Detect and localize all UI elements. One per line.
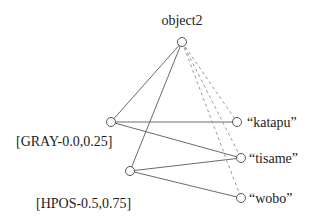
edge-hpos-tisame (130, 158, 241, 171)
node-tisame[interactable] (237, 154, 246, 163)
label-katapu: “katapu” (247, 115, 297, 130)
edge-object2-katapu (182, 42, 237, 122)
edge-hpos-wobo (130, 171, 241, 198)
label-hpos: [HPOS-0.5,0.75] (36, 196, 131, 211)
label-object2: object2 (161, 13, 202, 28)
node-gray[interactable] (107, 118, 116, 127)
node-object2[interactable] (178, 38, 187, 47)
edge-object2-hpos (130, 42, 182, 171)
edge-object2-wobo (182, 42, 241, 198)
label-tisame: “tisame” (249, 151, 298, 166)
node-katapu[interactable] (233, 118, 242, 127)
edge-object2-tisame (182, 42, 241, 158)
node-wobo[interactable] (237, 194, 246, 203)
edge-gray-tisame (111, 122, 241, 158)
graph-diagram: object2 [GRAY-0.0,0.25] [HPOS-0.5,0.75] … (0, 0, 319, 222)
label-wobo: “wobo” (249, 191, 293, 206)
node-hpos[interactable] (126, 167, 135, 176)
label-gray: [GRAY-0.0,0.25] (16, 134, 112, 149)
edge-object2-gray (111, 42, 182, 122)
